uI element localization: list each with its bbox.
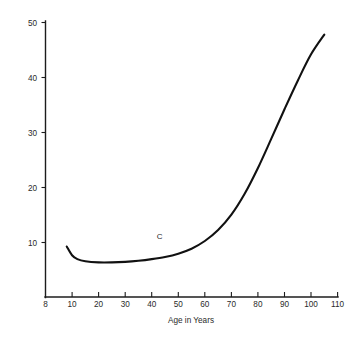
chart-container: 50 40 30 20 10 8 10 20 30 40 50 [0,0,357,339]
x-tick-label-60: 60 [200,300,210,309]
x-axis-ticks [72,292,338,297]
x-tick-label-30: 30 [121,300,131,309]
x-tick-label-20: 20 [94,300,104,309]
y-tick-label-10: 10 [28,239,38,248]
x-tick-label-50: 50 [174,300,184,309]
x-tick-label-70: 70 [227,300,237,309]
y-axis-tick-labels: 50 40 30 20 10 [28,19,38,248]
x-axis-tick-labels: 8 10 20 30 40 50 60 70 80 90 100 110 [43,300,344,309]
x-tick-label-80: 80 [253,300,263,309]
x-tick-label-10: 10 [68,300,78,309]
x-tick-label-100: 100 [304,300,318,309]
y-tick-label-20: 20 [28,184,38,193]
line-chart-svg: 50 40 30 20 10 8 10 20 30 40 50 [0,0,357,339]
data-curve-series-c [67,35,325,263]
x-tick-label-90: 90 [280,300,290,309]
x-tick-label-8: 8 [43,300,48,309]
curve-label-c: C [157,232,163,241]
y-tick-label-40: 40 [28,74,38,83]
x-tick-label-110: 110 [331,300,344,309]
x-tick-label-40: 40 [147,300,157,309]
y-tick-label-50: 50 [28,19,38,28]
x-axis-title: Age in Years [168,316,214,325]
y-tick-label-30: 30 [28,129,38,138]
